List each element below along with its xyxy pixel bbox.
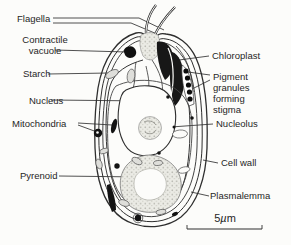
leader-starch — [48, 73, 109, 74]
leader-plasmalemma — [191, 192, 209, 196]
leader-pigment-2 — [192, 80, 210, 89]
label-starch: Starch — [23, 68, 50, 79]
cell-section-diagram: Flagella Contractile vacuole Starch Nucl… — [0, 0, 291, 245]
scale-bar-label: 5µm — [187, 212, 263, 224]
apical-papilla — [140, 33, 160, 61]
label-plasmalemma: Plasmalemma — [210, 190, 270, 201]
nucleolus-body — [139, 117, 162, 140]
label-pyrenoid: Pyrenoid — [20, 170, 58, 181]
label-nucleus: Nucleus — [29, 95, 63, 106]
label-nucleolus: Nucleolus — [216, 118, 258, 129]
label-chloroplast: Chloroplast — [212, 50, 260, 61]
label-flagella: Flagella — [17, 13, 50, 24]
label-contractile-vacuole: Contractile vacuole — [16, 34, 74, 56]
label-mitochondria: Mitochondria — [12, 118, 66, 129]
scale-bar — [187, 225, 262, 229]
contractile-vacuole-body — [124, 46, 136, 58]
label-pigment-granules: Pigment granules forming stigma — [213, 71, 249, 115]
scale-unit: m — [227, 212, 236, 224]
stigma-granules — [182, 65, 194, 106]
label-cell-wall: Cell wall — [221, 157, 256, 168]
